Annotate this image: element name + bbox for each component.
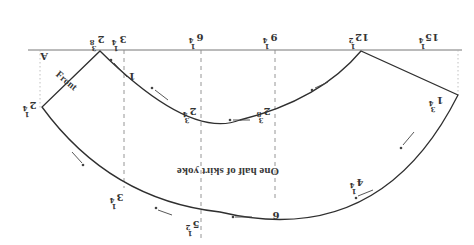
top-scale-label-9-1-4: 9 1 4	[262, 32, 277, 51]
svg-text:4: 4	[349, 181, 354, 190]
svg-text:3: 3	[119, 34, 126, 45]
arrow-icon	[72, 152, 84, 166]
arrow-icon	[151, 87, 168, 100]
svg-text:4: 4	[109, 196, 114, 205]
outer-mark-4-1-4: 4 1 4	[349, 177, 363, 196]
svg-text:1: 1	[129, 71, 136, 82]
svg-text:8: 8	[256, 110, 261, 119]
pattern-title: One half of skirt yoke	[177, 166, 279, 178]
svg-text:4: 4	[262, 36, 267, 45]
svg-text:One half of skirt yoke: One half of skirt yoke	[177, 166, 279, 178]
front-label: Front	[54, 68, 80, 92]
svg-text:5: 5	[192, 219, 199, 230]
svg-text:4: 4	[356, 177, 363, 188]
svg-text:4: 4	[188, 36, 193, 45]
arrow-icon	[355, 190, 373, 199]
inner-mark-2-3-8: 2 3 8	[256, 106, 270, 125]
svg-text:2: 2	[29, 100, 36, 111]
svg-text:2: 2	[348, 36, 353, 45]
svg-text:1: 1	[437, 95, 444, 106]
outer-mark-5-1-2: 5 1 2	[185, 219, 199, 238]
arrow-icon	[400, 132, 414, 149]
svg-text:4: 4	[22, 104, 27, 113]
svg-text:4: 4	[428, 99, 433, 108]
svg-text:2: 2	[263, 106, 270, 117]
svg-text:6: 6	[196, 32, 203, 43]
corner-label-a: A	[40, 51, 49, 62]
svg-text:9: 9	[270, 32, 277, 43]
top-scale-label-15-1-4: 15 1 4	[418, 32, 439, 51]
inner-mark-1-left: 1	[129, 71, 136, 82]
svg-text:Front: Front	[54, 68, 80, 92]
outer-mark-6: 6	[272, 210, 279, 221]
svg-text:A: A	[40, 51, 49, 62]
svg-text:15: 15	[425, 32, 439, 43]
inner-mark-2-3-4: 2 3 4	[182, 106, 196, 125]
svg-text:4: 4	[418, 36, 423, 45]
side-mark-1-3-4-right: 1 3 4	[428, 95, 443, 114]
arrow-icon	[155, 207, 172, 215]
svg-text:3: 3	[116, 192, 123, 203]
svg-text:4: 4	[182, 110, 187, 119]
svg-text:4: 4	[111, 38, 116, 47]
outer-mark-3-1-4: 3 1 4	[109, 192, 123, 211]
svg-text:2: 2	[185, 223, 190, 232]
svg-text:8: 8	[89, 38, 94, 47]
yoke-outline	[42, 51, 458, 219]
top-scale-label-6-1-4: 6 1 4	[188, 32, 203, 51]
top-scale-label-12-1-2: 12 1 2	[348, 32, 369, 51]
side-mark-2-1-4-left: 2 1 4	[22, 100, 36, 119]
svg-text:2: 2	[189, 106, 196, 117]
svg-text:6: 6	[272, 210, 279, 221]
svg-text:12: 12	[355, 32, 369, 43]
svg-text:2: 2	[97, 34, 104, 45]
skirt-yoke-pattern-diagram: 2 3 8 3 1 4 6 1 4 9 1 4 12 1 2 15 1 4 A …	[0, 0, 474, 245]
